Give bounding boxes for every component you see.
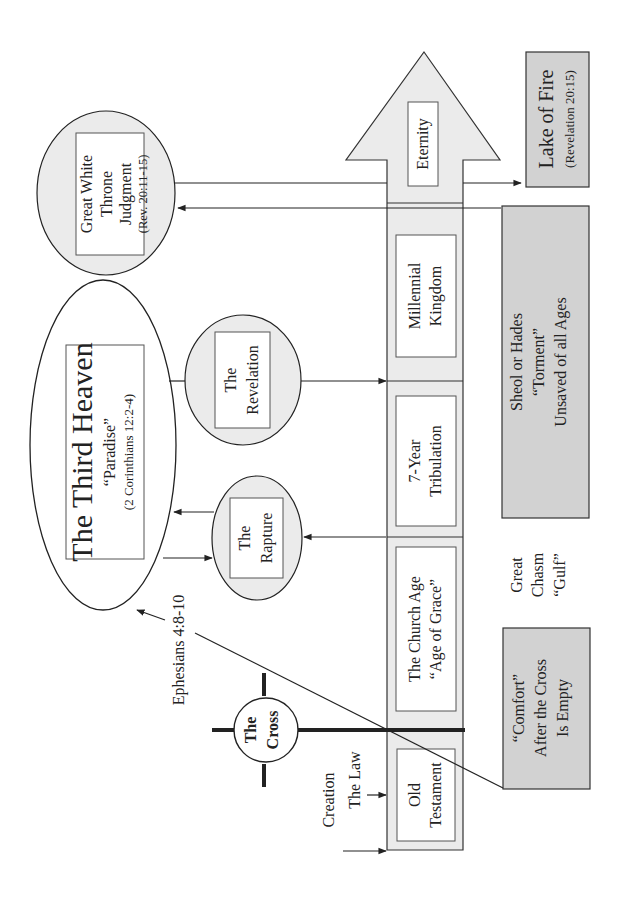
period-label: Millennial [406,262,423,329]
cross-label: Cross [264,711,281,750]
sheol-label: Unsaved of all Ages [552,297,570,426]
period-label: Eternity [414,118,432,170]
third-heaven-title: The Third Heaven [65,342,98,561]
comfort-label: Is Empty [554,679,572,737]
period-eternity: Eternity [408,102,438,186]
lake-of-fire: Lake of Fire (Revelation 20:15) [526,52,589,187]
cross-label: The [242,717,259,744]
comfort-box: “Comfort” After the Cross Is Empty [503,628,590,789]
great-chasm-label: Great [508,557,525,593]
period-label: The Church Age [406,576,424,682]
the-revelation: The Revelation [185,315,301,445]
rapture-label: Rapture [258,513,276,564]
great-chasm-label: Chasm [529,552,546,597]
sheol-label: “Torment” [530,328,547,396]
gwt-label: Judgment [117,162,135,225]
period-tribulation: 7-Year Tribulation [396,396,456,526]
period-label: Tribulation [427,425,444,496]
sheol-hades: Sheol or Hades “Torment” Unsaved of all … [502,206,589,518]
rapture-label: The [236,526,253,551]
great-white-throne-judgment: Great White Throne Judgment (Rev. 20:11-… [37,111,175,275]
salvation-timeline-diagram: Eternity Millennial Kingdom 7-Year Tribu… [0,0,629,904]
lake-of-fire-reference: (Revelation 20:15) [562,70,577,168]
third-heaven: The Third Heaven “Paradise” (2 Corinthia… [30,280,176,610]
revelation-label: The [222,368,239,393]
period-label: Testament [427,762,444,828]
gwt-reference: (Rev. 20:11-15) [136,155,150,234]
period-label: Old [406,783,423,807]
sheol-label: Sheol or Hades [508,313,525,411]
gwt-label: Throne [98,171,115,217]
third-heaven-subtitle: “Paradise” [101,418,118,486]
the-law-marker: The Law [346,751,386,809]
great-chasm: Great Chasm “Gulf” [508,552,568,597]
period-church-age: The Church Age “Age of Grace” [396,547,456,711]
svg-text:Creation: Creation [320,772,337,827]
period-label: “Age of Grace” [427,579,445,679]
ephesians-label: Ephesians 4:8-10 [170,595,188,706]
gwt-label: Great White [78,155,95,233]
period-label: 7-Year [406,439,423,482]
comfort-label: “Comfort” [510,674,527,742]
revelation-label: Revelation [244,345,261,414]
comfort-label: After the Cross [532,659,549,757]
lake-of-fire-title: Lake of Fire [535,69,557,168]
period-millennial-kingdom: Millennial Kingdom [396,235,456,357]
ephesians-arrow-to-heaven [137,610,165,620]
period-old-testament: Old Testament [397,749,455,841]
period-label: Kingdom [427,265,445,326]
svg-text:The Law: The Law [346,751,363,809]
the-rapture: The Rapture [212,476,302,600]
third-heaven-reference: (2 Corinthians 12:2-4) [121,394,136,510]
great-chasm-label: “Gulf” [551,553,568,597]
